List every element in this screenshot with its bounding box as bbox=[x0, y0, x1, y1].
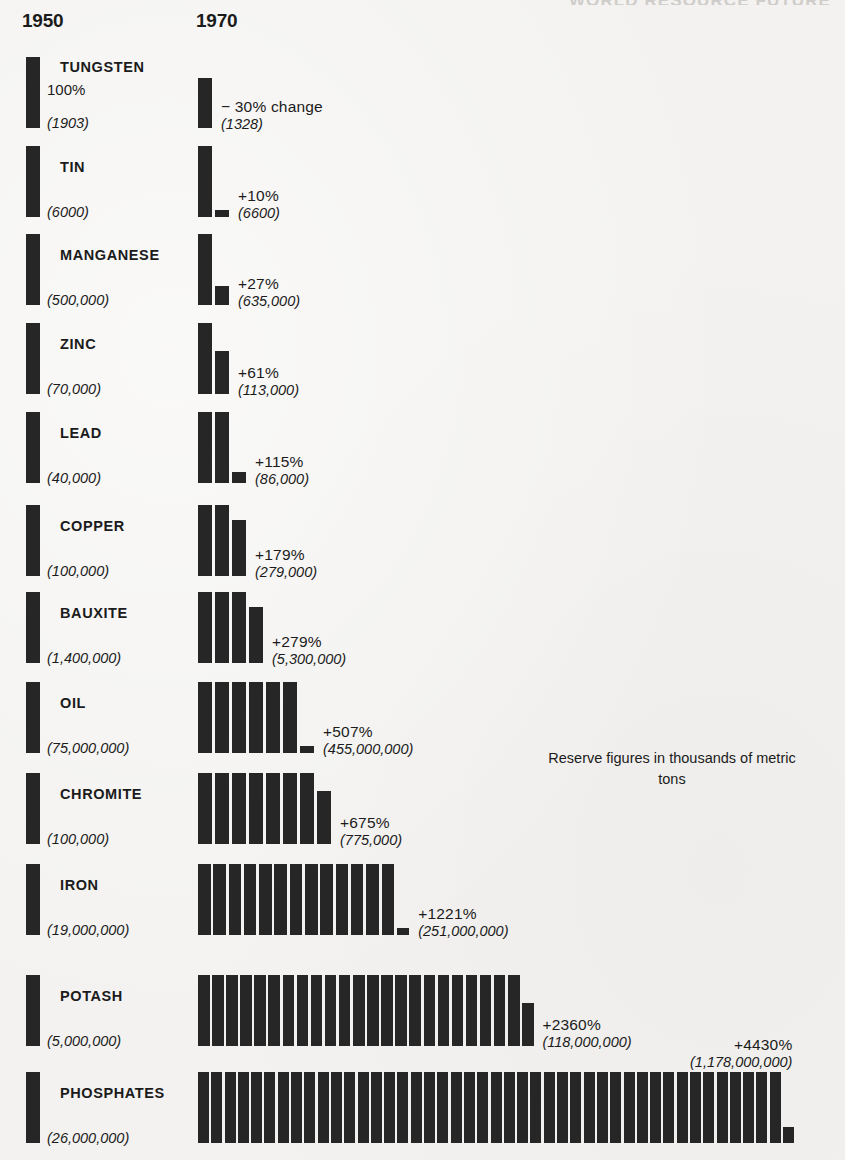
bar-1970-partial bbox=[232, 520, 246, 576]
bar-1970-full bbox=[283, 682, 297, 753]
bar-1970-full bbox=[480, 975, 492, 1046]
bar-1970-full bbox=[300, 773, 314, 844]
bar-1970-full bbox=[215, 592, 229, 663]
bar-1970-partial bbox=[397, 928, 410, 935]
bar-1970-full bbox=[477, 1072, 488, 1143]
bar-1970-partial bbox=[249, 607, 263, 663]
bar-1970-full bbox=[353, 975, 365, 1046]
change-annotation: +1221%(251,000,000) bbox=[418, 905, 508, 939]
bar-1970-full bbox=[504, 1072, 515, 1143]
bar-1970-partial bbox=[522, 1003, 534, 1046]
bar-1970-full bbox=[211, 1072, 222, 1143]
percent-change-label: +4430% bbox=[690, 1036, 792, 1054]
change-annotation: +2360%(118,000,000) bbox=[542, 1016, 631, 1050]
percent-change-label: +179% bbox=[255, 546, 317, 564]
bars-1950-group bbox=[26, 592, 40, 663]
bar-1970-full bbox=[311, 975, 323, 1046]
bar-1970-full bbox=[690, 1072, 701, 1143]
bar-1970-full bbox=[238, 1072, 249, 1143]
reserve-1970-label: (279,000) bbox=[255, 564, 317, 580]
reserve-1950-label: (6000) bbox=[47, 204, 89, 220]
bar-1970-full bbox=[226, 975, 238, 1046]
change-annotation: +507%(455,000,000) bbox=[323, 723, 413, 757]
bar-1950 bbox=[26, 682, 40, 753]
bar-1950 bbox=[26, 592, 40, 663]
change-annotation: +279%(5,300,000) bbox=[272, 633, 346, 667]
bar-1970-partial bbox=[198, 78, 212, 128]
bar-1970-full bbox=[318, 1072, 329, 1143]
bar-1970-full bbox=[266, 773, 280, 844]
bars-1950-group bbox=[26, 957, 40, 1046]
bar-1970-full bbox=[366, 864, 379, 935]
bar-1950 bbox=[26, 412, 40, 483]
mineral-label: ZINC bbox=[60, 336, 96, 352]
bar-1970-full bbox=[382, 864, 395, 935]
bars-1950-group bbox=[26, 146, 40, 217]
bars-1970-group bbox=[198, 234, 232, 305]
reserve-1970-label: (775,000) bbox=[340, 832, 402, 848]
percent-change-label: +279% bbox=[272, 633, 346, 651]
percent-change-label: +61% bbox=[238, 364, 299, 382]
bar-1970-full bbox=[717, 1072, 728, 1143]
bar-1970-full bbox=[325, 975, 337, 1046]
bar-1970-full bbox=[464, 1072, 475, 1143]
bar-1970-full bbox=[215, 682, 229, 753]
bar-1970-full bbox=[409, 975, 421, 1046]
reserve-1950-label: (40,000) bbox=[47, 470, 101, 486]
bar-1970-full bbox=[251, 1072, 262, 1143]
bar-1970-full bbox=[254, 975, 266, 1046]
bar-1970-full bbox=[624, 1072, 635, 1143]
bar-1970-full bbox=[274, 864, 287, 935]
bar-1970-full bbox=[291, 1072, 302, 1143]
percent-change-label: +115% bbox=[255, 453, 309, 471]
bar-1970-full bbox=[411, 1072, 422, 1143]
change-annotation: +675%(775,000) bbox=[340, 814, 402, 848]
bar-1970-full bbox=[530, 1072, 541, 1143]
reserve-1970-label: (113,000) bbox=[238, 382, 299, 398]
bar-1970-partial bbox=[215, 210, 229, 217]
bar-1970-full bbox=[283, 773, 297, 844]
bar-1970-full bbox=[395, 975, 407, 1046]
bar-1970-full bbox=[198, 234, 212, 305]
bar-1970-full bbox=[266, 682, 280, 753]
bars-1970-group bbox=[198, 682, 317, 753]
bar-1950 bbox=[26, 323, 40, 394]
bar-1970-full bbox=[584, 1072, 595, 1143]
bar-1970-full bbox=[198, 412, 212, 483]
reserve-1970-label: (1328) bbox=[221, 116, 323, 132]
change-annotation: +115%(86,000) bbox=[255, 453, 309, 487]
chart-row: IRON(19,000,000)+1221%(251,000,000) bbox=[0, 864, 845, 935]
mineral-label: PHOSPHATES bbox=[60, 1085, 165, 1101]
bar-1970-full bbox=[358, 1072, 369, 1143]
reserve-1950-label: (5,000,000) bbox=[47, 1033, 121, 1049]
bar-1970-full bbox=[331, 1072, 342, 1143]
bar-1970-full bbox=[215, 412, 229, 483]
bars-1970-group bbox=[198, 412, 249, 483]
baseline-percent-label: 100% bbox=[47, 81, 85, 98]
percent-change-label: − 30% change bbox=[221, 98, 323, 116]
bar-1970-full bbox=[491, 1072, 502, 1143]
percent-change-label: +2360% bbox=[542, 1016, 631, 1034]
bars-1970-group bbox=[198, 957, 536, 1046]
bars-1970-group bbox=[198, 592, 266, 663]
percent-change-label: +507% bbox=[323, 723, 413, 741]
bar-1970-partial bbox=[215, 351, 229, 394]
bar-1950 bbox=[26, 975, 40, 1046]
reserve-1970-label: (118,000,000) bbox=[542, 1034, 631, 1050]
chart-row: LEAD(40,000)+115%(86,000) bbox=[0, 412, 845, 483]
bar-1970-full bbox=[215, 773, 229, 844]
chart-page: WORLD RESOURCE FUTURE 1950 1970 TUNGSTEN… bbox=[0, 0, 845, 1160]
bar-1970-full bbox=[610, 1072, 621, 1143]
bar-1970-full bbox=[213, 864, 226, 935]
bar-1970-full bbox=[339, 975, 351, 1046]
bar-1970-full bbox=[743, 1072, 754, 1143]
chart-row: BAUXITE(1,400,000)+279%(5,300,000) bbox=[0, 592, 845, 663]
bar-1970-full bbox=[249, 682, 263, 753]
reserve-1970-label: (5,300,000) bbox=[272, 651, 346, 667]
bar-1970-full bbox=[264, 1072, 275, 1143]
bar-1970-full bbox=[770, 1072, 781, 1143]
bar-1970-full bbox=[451, 1072, 462, 1143]
bar-1970-full bbox=[198, 1072, 209, 1143]
chart-row: MANGANESE(500,000)+27%(635,000) bbox=[0, 234, 845, 305]
chart-row: TIN(6000)+10%(6600) bbox=[0, 146, 845, 217]
